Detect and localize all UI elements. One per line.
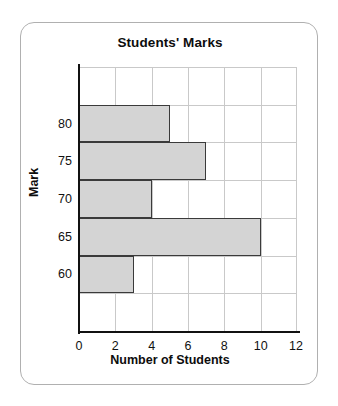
x-tick-label: 10: [254, 339, 268, 353]
gridline-vertical: [188, 67, 189, 331]
y-tick-label: 80: [58, 117, 72, 131]
gridline-horizontal: [79, 293, 297, 294]
y-axis-title: Mark: [27, 168, 41, 197]
chart-title: Students' Marks: [21, 35, 319, 50]
bar-mark-70: [79, 180, 152, 218]
gridline-vertical: [296, 67, 297, 331]
x-tick-label: 8: [221, 339, 228, 353]
gridline-vertical: [261, 67, 262, 331]
x-axis-title: Number of Students: [21, 353, 319, 367]
bar-mark-80: [79, 105, 170, 143]
y-tick-label: 70: [58, 192, 72, 206]
y-tick-label: 65: [58, 230, 72, 244]
gridline-vertical: [224, 67, 225, 331]
x-tick-label: 0: [76, 339, 83, 353]
y-axis-line: [78, 64, 80, 334]
x-tick-label: 2: [112, 339, 119, 353]
y-tick-label: 60: [58, 267, 72, 281]
chart-card: Students' Marks Mark 80 75 70: [20, 22, 318, 385]
bar-mark-60: [79, 256, 134, 294]
bar-mark-75: [79, 142, 206, 180]
x-tick-label: 6: [185, 339, 192, 353]
y-tick-label: 75: [58, 154, 72, 168]
x-tick-label: 12: [289, 339, 303, 353]
plot-area: 80 75 70 65 60 0 2 4 6 8 10 12: [79, 67, 297, 331]
bar-mark-65: [79, 218, 261, 256]
x-tick-label: 4: [148, 339, 155, 353]
gridline-horizontal: [79, 67, 297, 68]
x-axis-line: [78, 331, 300, 333]
